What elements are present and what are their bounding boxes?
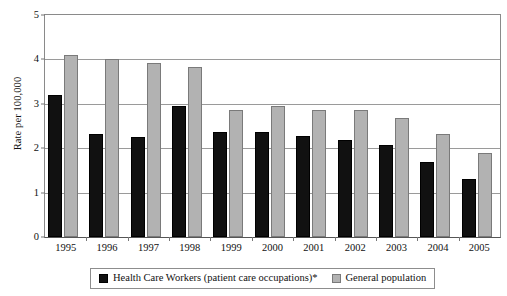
bars-layer xyxy=(45,15,500,237)
bar-group xyxy=(45,15,86,237)
bar-health-care-workers xyxy=(89,134,103,237)
bar-group xyxy=(169,15,210,237)
bar-general-population xyxy=(312,110,326,237)
x-tick-label-2005: 2005 xyxy=(469,242,490,253)
y-tick-label: 3 xyxy=(34,99,39,110)
bar-general-population xyxy=(188,67,202,237)
bar-group xyxy=(335,15,376,237)
x-tick-mark xyxy=(335,237,336,241)
y-tick-label: 4 xyxy=(34,54,39,65)
x-tick-mark xyxy=(252,237,253,241)
x-tick-label-2003: 2003 xyxy=(386,242,407,253)
plot-area: 012345 199519961997199819992000200120022… xyxy=(44,14,501,238)
x-tick-label-2004: 2004 xyxy=(427,242,448,253)
bar-health-care-workers xyxy=(48,95,62,237)
bar-general-population xyxy=(229,110,243,237)
legend-item: Health Care Workers (patient care occupa… xyxy=(99,273,318,284)
bar-health-care-workers xyxy=(213,132,227,237)
bar-general-population xyxy=(478,153,492,237)
x-tick-mark xyxy=(86,237,87,241)
bar-health-care-workers xyxy=(131,137,145,237)
legend-label: Health Care Workers (patient care occupa… xyxy=(113,273,318,284)
x-tick-label-1996: 1996 xyxy=(97,242,118,253)
bar-health-care-workers xyxy=(462,179,476,237)
y-axis-title: Rate per 100,000 xyxy=(12,39,23,189)
bar-group xyxy=(86,15,127,237)
bar-health-care-workers xyxy=(255,132,269,237)
x-tick-label-1995: 1995 xyxy=(55,242,76,253)
x-tick-label-2001: 2001 xyxy=(303,242,324,253)
bar-health-care-workers xyxy=(420,162,434,237)
bar-group xyxy=(252,15,293,237)
y-tick-label: 1 xyxy=(34,187,39,198)
bar-health-care-workers xyxy=(379,145,393,237)
legend-label: General population xyxy=(346,273,427,284)
x-tick-mark xyxy=(293,237,294,241)
bar-group xyxy=(210,15,251,237)
bar-general-population xyxy=(395,118,409,237)
bar-general-population xyxy=(64,55,78,237)
chart-legend: Health Care Workers (patient care occupa… xyxy=(90,268,435,289)
x-tick-mark xyxy=(169,237,170,241)
bar-general-population xyxy=(354,110,368,237)
bar-general-population xyxy=(147,63,161,237)
bar-group xyxy=(293,15,334,237)
x-tick-label-1998: 1998 xyxy=(179,242,200,253)
bar-general-population xyxy=(271,106,285,237)
bar-group xyxy=(417,15,458,237)
x-tick-mark xyxy=(210,237,211,241)
bar-group xyxy=(376,15,417,237)
y-tick-label: 0 xyxy=(34,232,39,243)
x-tick-mark xyxy=(459,237,460,241)
x-tick-label-2000: 2000 xyxy=(262,242,283,253)
x-tick-mark xyxy=(417,237,418,241)
y-tick-label: 2 xyxy=(34,143,39,154)
x-tick-label-1997: 1997 xyxy=(138,242,159,253)
legend-item: General population xyxy=(332,273,427,284)
x-tick-label-1999: 1999 xyxy=(221,242,242,253)
tuberculosis-rate-bar-chart: Rate per 100,000 012345 1995199619971998… xyxy=(0,0,507,296)
bar-general-population xyxy=(105,59,119,237)
bar-health-care-workers xyxy=(296,136,310,237)
bar-general-population xyxy=(436,134,450,237)
bar-group xyxy=(459,15,500,237)
y-tick-label: 5 xyxy=(34,10,39,21)
bar-group xyxy=(128,15,169,237)
x-tick-mark xyxy=(128,237,129,241)
gray-square-swatch xyxy=(332,274,341,283)
black-square-swatch xyxy=(99,274,108,283)
bar-health-care-workers xyxy=(338,140,352,237)
bar-health-care-workers xyxy=(172,106,186,237)
x-tick-label-2002: 2002 xyxy=(345,242,366,253)
x-tick-mark xyxy=(376,237,377,241)
